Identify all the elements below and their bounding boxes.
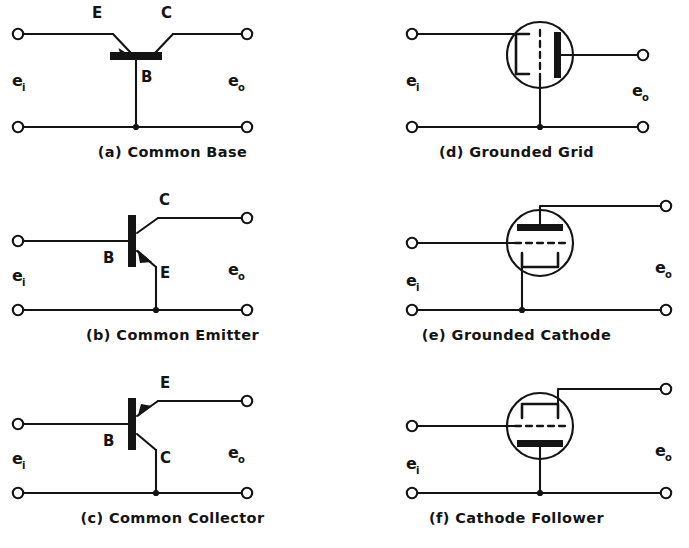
base-bar-a [110, 52, 162, 60]
output-ground-terminal-a[interactable] [242, 122, 252, 132]
input-voltage-subscript-c: i [22, 460, 25, 471]
input-ground-terminal-c[interactable] [13, 488, 23, 498]
label-emitter-b: E [160, 264, 170, 282]
ground-junction-c [153, 490, 159, 496]
output-lead-f [558, 389, 661, 404]
caption-d: (d) Grounded Grid [344, 144, 689, 160]
output-voltage-subscript-d: o [642, 92, 649, 103]
base-bar-b [128, 215, 136, 267]
input-voltage-subscript-e: i [416, 282, 419, 293]
input-voltage-subscript-f: i [416, 465, 419, 476]
ground-junction-b [153, 307, 159, 313]
output-voltage-subscript-b: o [238, 271, 245, 282]
label-base-b: B [103, 249, 114, 267]
collector-lead-a [155, 34, 173, 53]
output-voltage-subscript-f: o [665, 452, 672, 463]
output-terminal-f[interactable] [661, 384, 671, 394]
output-terminal-b[interactable] [242, 213, 252, 223]
input-voltage-subscript-d: i [416, 82, 419, 93]
circuit-f-cathode-follower: e i e o (f) Cathode Follower [344, 366, 689, 548]
plate-f [517, 440, 563, 447]
emitter-arrowhead-b [138, 250, 153, 264]
input-ground-terminal-d[interactable] [407, 122, 417, 132]
label-base-c: B [103, 432, 114, 450]
collector-lead-b [137, 218, 158, 233]
input-terminal-d[interactable] [407, 29, 417, 39]
circuit-c-common-collector: E B C e i e o (c) Common Collector [0, 366, 345, 548]
ground-junction-f [537, 490, 543, 496]
input-terminal-f[interactable] [407, 421, 417, 431]
emitter-lead-a [113, 34, 131, 53]
plate-e [517, 224, 563, 231]
collector-lead-c [137, 434, 156, 450]
circuit-d-grounded-grid: e i e o (d) Grounded Grid [344, 0, 689, 183]
output-ground-terminal-c[interactable] [242, 488, 252, 498]
input-ground-terminal-a[interactable] [13, 122, 23, 132]
input-terminal-a[interactable] [13, 29, 23, 39]
input-terminal-b[interactable] [13, 236, 23, 246]
output-voltage-subscript-c: o [238, 454, 245, 465]
caption-f: (f) Cathode Follower [344, 510, 689, 526]
output-voltage-subscript-a: o [238, 82, 245, 93]
caption-c: (c) Common Collector [0, 510, 345, 526]
circuit-b-common-emitter: C B E e i e o (b) Common Emitter [0, 183, 345, 366]
label-base-a: B [141, 68, 152, 86]
caption-e: (e) Grounded Cathode [344, 327, 689, 343]
caption-a: (a) Common Base [0, 144, 345, 160]
output-terminal-c[interactable] [242, 396, 252, 406]
output-terminal-a[interactable] [242, 29, 252, 39]
output-ground-terminal-f[interactable] [661, 488, 671, 498]
ground-junction-a [133, 124, 139, 130]
label-emitter-c: E [160, 374, 170, 392]
base-bar-c [128, 398, 136, 450]
input-ground-terminal-e[interactable] [407, 305, 417, 315]
output-terminal-d[interactable] [638, 50, 648, 60]
output-terminal-e[interactable] [661, 201, 671, 211]
input-terminal-c[interactable] [13, 419, 23, 429]
output-ground-terminal-e[interactable] [661, 305, 671, 315]
label-collector-a: C [161, 4, 172, 22]
input-terminal-e[interactable] [407, 238, 417, 248]
caption-b: (b) Common Emitter [0, 327, 345, 343]
plate-d [554, 32, 561, 78]
output-ground-terminal-b[interactable] [242, 305, 252, 315]
ground-junction-d [537, 124, 543, 130]
output-ground-terminal-d[interactable] [638, 122, 648, 132]
input-voltage-subscript-b: i [22, 277, 25, 288]
label-collector-b: C [159, 191, 170, 209]
ground-junction-e [519, 307, 525, 313]
output-voltage-subscript-e: o [665, 269, 672, 280]
input-voltage-subscript-a: i [22, 82, 25, 93]
label-emitter-a: E [92, 4, 102, 22]
label-collector-c: C [160, 449, 171, 467]
emitter-arrowhead-c [138, 404, 153, 417]
input-ground-terminal-f[interactable] [407, 488, 417, 498]
circuit-a-common-base: E C B e i e o (a) Common Base [0, 0, 345, 183]
circuit-figure: E C B e i e o (a) Common Base [0, 0, 689, 548]
input-ground-terminal-b[interactable] [13, 305, 23, 315]
circuit-e-grounded-cathode: e i e o (e) Grounded Cathode [344, 183, 689, 366]
